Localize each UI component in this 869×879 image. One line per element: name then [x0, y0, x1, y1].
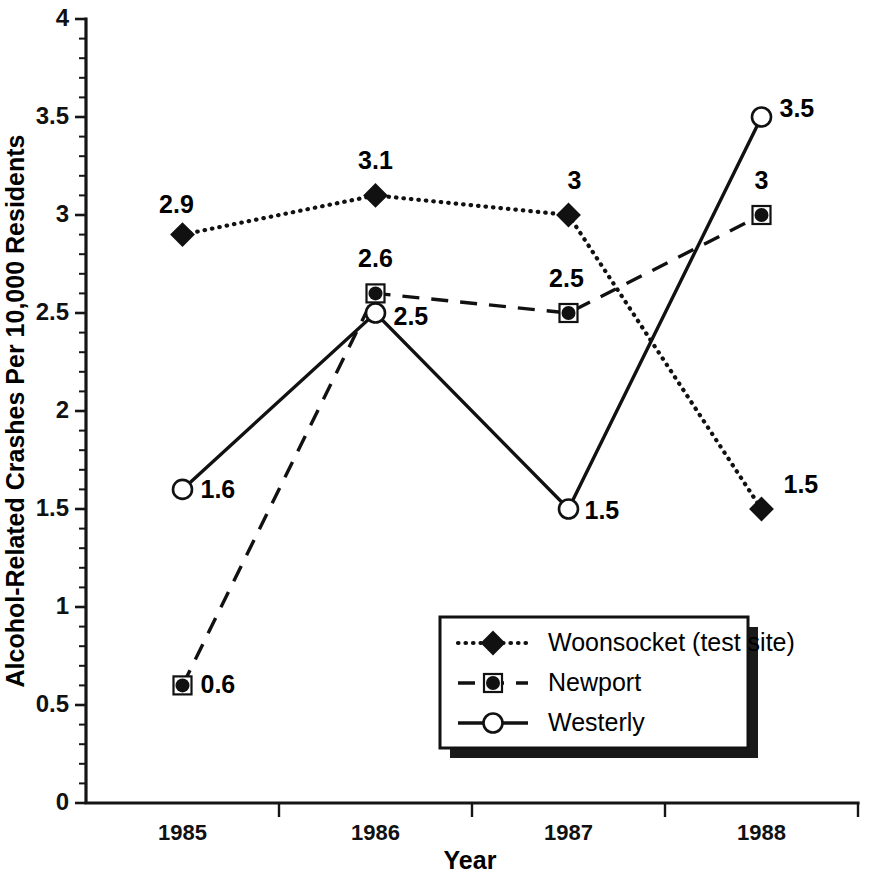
data-point-value-label: 3: [755, 166, 769, 194]
circle-marker-icon: [559, 500, 578, 519]
data-point-marker: [172, 224, 194, 246]
legend-marker: [484, 714, 503, 733]
y-tick-label: 2: [56, 396, 69, 423]
series-path: [183, 195, 762, 509]
legend-item-label: Newport: [548, 668, 641, 696]
data-point-marker: [560, 304, 578, 322]
data-point-value-label: 3: [568, 166, 582, 194]
circle-marker-icon: [366, 304, 385, 323]
x-axis-title: Year: [444, 846, 497, 874]
y-tick-label: 4: [56, 4, 70, 31]
series-path: [183, 215, 762, 685]
data-point-marker: [558, 204, 580, 226]
series-path: [183, 117, 762, 509]
data-point-marker: [366, 304, 385, 323]
y-axis-title: Alcohol-Related Crashes Per 10,000 Resid…: [1, 134, 29, 687]
y-tick-label: 0.5: [36, 690, 69, 717]
legend-item-label: Westerly: [548, 708, 645, 736]
data-point-marker: [173, 480, 192, 499]
legend-item-label: Woonsocket (test site): [548, 628, 795, 656]
line-chart: Alcohol-Related Crashes Per 10,000 Resid…: [0, 0, 869, 879]
data-point-marker: [752, 108, 771, 127]
data-point-marker: [174, 676, 192, 694]
data-point-value-label: 1.5: [784, 470, 819, 498]
diamond-marker-icon: [751, 498, 773, 520]
x-tick-label: 1987: [544, 820, 593, 845]
x-tick-label: 1988: [737, 820, 786, 845]
data-point-marker: [753, 206, 771, 224]
chart-legend[interactable]: Woonsocket (test site)NewportWesterly: [440, 617, 795, 758]
point-labels-layer: 2.93.131.50.62.62.531.62.51.53.5: [159, 94, 818, 698]
diamond-marker-icon: [558, 204, 580, 226]
y-axis-title-text: Alcohol-Related Crashes Per 10,000 Resid…: [1, 134, 29, 687]
data-point-marker: [559, 500, 578, 519]
data-point-value-label: 1.6: [201, 475, 236, 503]
data-point-value-label: 3.5: [780, 94, 815, 122]
y-tick-label: 0: [56, 788, 69, 815]
data-point-value-label: 2.9: [159, 190, 194, 218]
x-axis-title-text: Year: [444, 846, 497, 874]
square-marker-icon: [562, 306, 576, 320]
series-woonsocket-test-site: [172, 184, 773, 520]
data-point-value-label: 0.6: [201, 670, 236, 698]
square-marker-icon: [176, 678, 190, 692]
diamond-marker-icon: [365, 184, 387, 206]
circle-marker-icon: [752, 108, 771, 127]
data-point-value-label: 2.5: [549, 264, 584, 292]
data-point-value-label: 2.6: [358, 244, 393, 272]
x-tick-label: 1985: [158, 820, 207, 845]
legend-marker: [484, 674, 502, 692]
x-tick-label: 1986: [351, 820, 400, 845]
y-tick-label: 1: [56, 592, 69, 619]
y-tick-label: 2.5: [36, 298, 69, 325]
data-point-marker: [365, 184, 387, 206]
series-layer: [172, 108, 773, 695]
series-westerly: [173, 108, 771, 519]
data-point-value-label: 1.5: [585, 496, 620, 524]
square-marker-icon: [755, 208, 769, 222]
data-point-value-label: 2.5: [394, 302, 429, 330]
y-tick-label: 3.5: [36, 102, 69, 129]
square-marker-icon: [369, 286, 383, 300]
chart-container: Alcohol-Related Crashes Per 10,000 Resid…: [0, 0, 869, 879]
square-marker-icon: [486, 676, 500, 690]
data-point-marker: [367, 284, 385, 302]
y-tick-label: 1.5: [36, 494, 69, 521]
diamond-marker-icon: [172, 224, 194, 246]
data-point-marker: [751, 498, 773, 520]
circle-marker-icon: [484, 714, 503, 733]
data-point-value-label: 3.1: [358, 146, 393, 174]
y-tick-label: 3: [56, 200, 69, 227]
circle-marker-icon: [173, 480, 192, 499]
